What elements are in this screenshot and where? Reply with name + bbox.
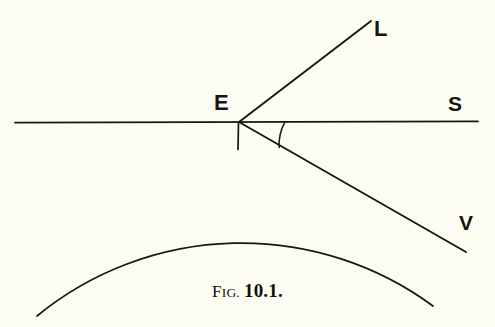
vertical-drop-segment	[238, 122, 239, 150]
ray-ev-segment	[239, 122, 466, 252]
figure-drawing-canvas	[0, 0, 495, 327]
planet-surface-arc	[37, 243, 433, 316]
label-l: L	[374, 18, 387, 40]
caption-number: 10.1.	[244, 280, 283, 301]
label-e: E	[214, 92, 229, 114]
caption-fig-word: FIG.	[212, 282, 240, 301]
sight-line-segment	[15, 121, 478, 122]
figure-caption: FIG.10.1.	[0, 281, 495, 300]
figure-page: E L S V FIG.10.1.	[0, 0, 495, 327]
label-s: S	[448, 93, 462, 114]
ray-el-segment	[239, 21, 371, 122]
caption-fig-smallcaps: IG.	[222, 285, 240, 300]
label-v: V	[459, 212, 473, 233]
caption-fig-initial: F	[212, 282, 222, 301]
angle-arc-mark	[279, 122, 285, 148]
